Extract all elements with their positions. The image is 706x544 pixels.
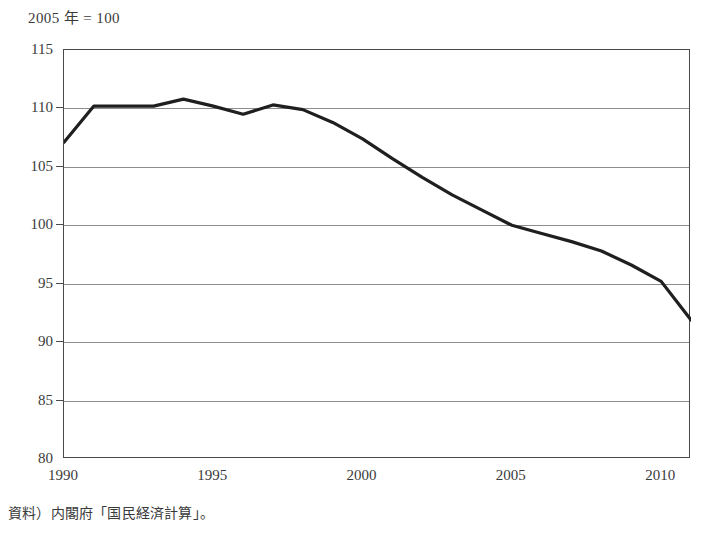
data-line-指数 [64,99,691,320]
x-tick-label-2005: 2005 [496,467,526,484]
source-note: 資料）内閣府「国民経済計算」。 [8,502,214,522]
x-tick-label-1995: 1995 [197,467,227,484]
y-tick-label-105: 105 [31,157,54,174]
x-axis-labels: 19901995200020052010 [0,467,706,491]
plot-area [63,49,690,458]
y-tick-label-100: 100 [31,216,54,233]
y-tick-label-85: 85 [38,391,53,408]
y-axis-labels: 11511010510095908580 [0,49,53,458]
x-tick-label-1990: 1990 [48,467,78,484]
chart-title: 2005 年 = 100 [28,6,120,27]
y-tick-label-95: 95 [38,274,53,291]
y-tick-label-90: 90 [38,333,53,350]
series-layer [64,50,689,457]
y-tick-label-115: 115 [31,41,53,58]
y-tick-mark-90 [56,341,63,342]
y-tick-label-110: 110 [31,99,53,116]
x-tick-label-2000: 2000 [347,467,377,484]
y-tick-mark-110 [56,107,63,108]
y-tick-mark-95 [56,283,63,284]
series-svg [64,50,691,459]
y-tick-mark-100 [56,224,63,225]
figure-container: 2005 年 = 100 11511010510095908580 199019… [0,0,706,544]
y-tick-label-80: 80 [38,450,53,467]
y-tick-mark-85 [56,400,63,401]
x-tick-label-2010: 2010 [645,467,675,484]
y-tick-mark-105 [56,166,63,167]
